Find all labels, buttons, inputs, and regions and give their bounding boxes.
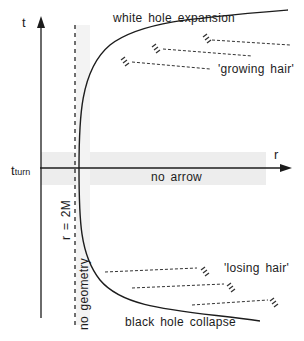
t-axis-arrowhead-icon <box>37 16 45 28</box>
squiggle-icon <box>270 298 278 307</box>
t-axis-label: t <box>22 16 26 29</box>
no-arrow-label: no arrow <box>151 171 202 183</box>
black-hole-collapse-label: black hole collapse <box>125 316 236 328</box>
squiggle-icon <box>227 283 235 292</box>
horizon-label: r = 2M <box>60 200 72 240</box>
squiggle-icon <box>152 44 160 53</box>
black-hole-curve <box>79 168 260 321</box>
t-turn-subscript: turn <box>15 167 31 177</box>
spacetime-diagram: t r tturn white hole expansion 'growing … <box>0 0 304 341</box>
growing-hair-label: 'growing hair' <box>218 63 294 75</box>
no-geometry-label: no geometry <box>78 258 90 330</box>
r-axis-label: r <box>274 148 278 161</box>
losing-hair-label: 'losing hair' <box>224 262 289 274</box>
squiggle-icon <box>121 57 129 66</box>
squiggle-icon <box>203 34 211 43</box>
squiggle-icon <box>201 267 209 276</box>
white-hole-curve <box>79 10 288 168</box>
r-axis-arrowhead-icon <box>280 164 292 172</box>
white-hole-expansion-label: white hole expansion <box>113 12 235 24</box>
t-turn-label: tturn <box>11 162 30 178</box>
